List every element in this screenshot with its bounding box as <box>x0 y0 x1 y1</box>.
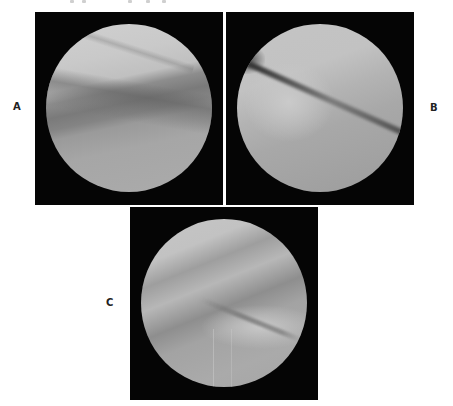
arthroscopic-image-c <box>141 219 307 387</box>
clipped-caption-fragment <box>66 0 176 3</box>
panel-label-b: B <box>430 103 438 113</box>
panel-label-a: A <box>13 102 21 112</box>
figure-panel-c <box>130 207 318 400</box>
arthroscopic-image-b <box>237 24 403 192</box>
arthroscopic-image-a <box>46 24 212 192</box>
panel-label-c: C <box>106 298 113 308</box>
figure-panel-b <box>226 12 414 205</box>
figure-panel-a <box>35 12 223 205</box>
